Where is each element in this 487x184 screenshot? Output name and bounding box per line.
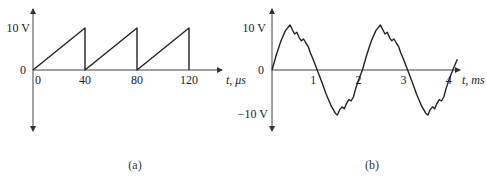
chart-a-x-tick-0: 0 (35, 73, 41, 87)
chart-b-x-axis-label: t, ms (462, 73, 485, 87)
chart-a-sawtooth-series (33, 28, 189, 70)
chart-b-caption: (b) (365, 158, 379, 172)
chart-a: 10 V 0 0 40 80 120 t, μs (a) (7, 9, 247, 172)
chart-b-x-tick-1: 1 (310, 73, 316, 87)
chart-b-y-tick-0: 0 (258, 63, 264, 77)
chart-a-y-tick-0: 0 (20, 63, 26, 77)
chart-a-x-tick-40: 40 (79, 73, 91, 87)
chart-a-x-axis-label: t, μs (226, 73, 246, 87)
chart-b-y-tick-neg10v: −10 V (238, 107, 269, 121)
chart-b: 10 V 0 −10 V 1 2 3 4 t, ms (b) (238, 9, 485, 172)
chart-a-x-tick-80: 80 (131, 73, 143, 87)
chart-a-y-tick-10v: 10 V (7, 21, 31, 35)
chart-b-x-tick-4: 4 (446, 73, 452, 87)
chart-b-x-tick-2: 2 (355, 73, 361, 87)
figure: 10 V 0 0 40 80 120 t, μs (a) 10 V 0 −10 … (0, 0, 487, 184)
chart-a-x-tick-120: 120 (180, 73, 198, 87)
chart-a-caption: (a) (128, 158, 141, 172)
chart-b-y-tick-10v: 10 V (243, 21, 267, 35)
chart-b-x-tick-3: 3 (401, 73, 407, 87)
